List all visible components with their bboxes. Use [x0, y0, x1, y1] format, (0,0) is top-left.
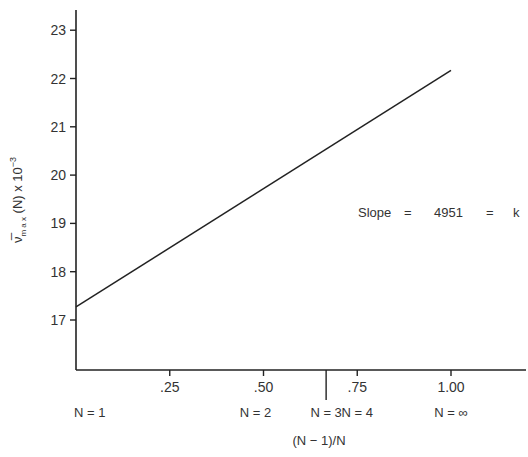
slope-value: 4951 — [434, 205, 463, 220]
y-label-sup: −3 — [8, 157, 18, 167]
x-tick-label: .75 — [348, 379, 368, 395]
y-tick-label: 22 — [50, 71, 66, 87]
y-tick-label: 17 — [50, 312, 66, 328]
n-label: N = 4 — [342, 405, 373, 420]
y-tick-label: 21 — [50, 119, 66, 135]
slope-eq2: = — [486, 205, 494, 220]
x-axis-ticks: .25.50.751.00 — [160, 370, 465, 400]
slope-label: Slope — [358, 205, 391, 220]
n-label: N = 2 — [240, 405, 271, 420]
slope-annotation: Slope = 4951 = k — [358, 205, 520, 220]
line-chart: 17181920212223 .25.50.751.00 N = 1N = 2N… — [0, 0, 528, 457]
slope-k: k — [513, 205, 520, 220]
y-tick-label: 19 — [50, 215, 66, 231]
fit-line — [76, 70, 451, 307]
slope-eq1: = — [404, 205, 412, 220]
y-label-sub: m a x — [19, 217, 28, 237]
data-series — [76, 70, 451, 307]
n-label: N = ∞ — [434, 405, 467, 420]
y-label-rest: (N) x 10 — [10, 167, 25, 217]
axes — [76, 10, 526, 370]
n-labels: N = 1N = 2N = 3N = 4N = ∞ — [74, 405, 468, 420]
y-axis-label: ν̅m a x (N) x 10−3 — [8, 157, 28, 243]
x-tick-label: .50 — [254, 379, 274, 395]
y-tick-label: 18 — [50, 264, 66, 280]
y-tick-label: 20 — [50, 167, 66, 183]
x-axis-label: (N − 1)/N — [292, 433, 345, 448]
y-axis-ticks: 17181920212223 — [50, 22, 76, 328]
x-tick-label: .25 — [160, 379, 180, 395]
svg-text:ν̅m a x (N) x 10−3: ν̅m a x (N) x 10−3 — [8, 157, 28, 243]
y-tick-label: 23 — [50, 22, 66, 38]
n-label: N = 3 — [310, 405, 341, 420]
n-label: N = 1 — [74, 405, 105, 420]
x-tick-label: 1.00 — [437, 379, 464, 395]
